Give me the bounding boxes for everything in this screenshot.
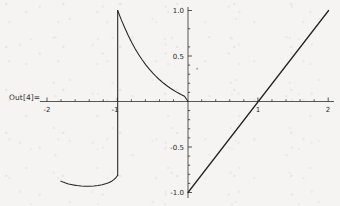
y-tick-label-0-5: 0.5	[173, 53, 184, 61]
x-tick-label-1: 1	[256, 106, 260, 114]
x-tick-label-2: 2	[326, 106, 330, 114]
x-tick-label--2: -2	[44, 106, 51, 114]
plot-graphic: -2 -1 1 2	[0, 0, 340, 206]
dust-speck	[196, 68, 198, 70]
y-tick-label--0-5: -0.5	[170, 144, 184, 152]
y-axis-group: 1.0 0.5 -0.5 -1.0	[170, 7, 192, 198]
y-tick-label-1-0: 1.0	[173, 7, 184, 15]
notebook-output-cell: Out[4]=	[0, 0, 340, 206]
y-tick-label--1-0: -1.0	[170, 189, 184, 197]
curve-lower-u-branch	[61, 175, 118, 186]
